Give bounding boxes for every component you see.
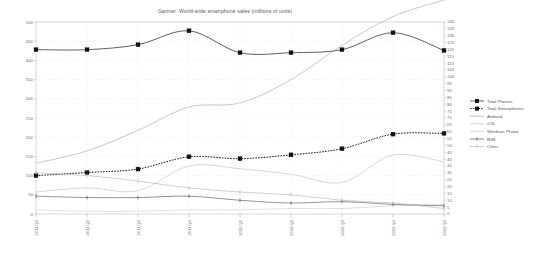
data-point-marker (187, 155, 191, 159)
x-axis-tick-label: 2012 Q1 (238, 219, 243, 235)
y-axis-right-tick-label: 140 (447, 19, 455, 24)
data-point-marker (289, 51, 293, 55)
legend-item-total-phones[interactable]: Total Phones (470, 99, 513, 104)
y-axis-right-tick-label: 40 (447, 157, 452, 162)
y-axis-right-tick-label: 95 (447, 81, 452, 86)
y-axis-right-tick-label: 45 (447, 150, 452, 155)
legend-label: Other (487, 144, 499, 149)
data-point-marker (442, 131, 446, 135)
y-axis-right-tick-label: 110 (447, 61, 454, 66)
data-point-marker (391, 132, 395, 136)
x-axis-tick-label: 2012 Q3 (340, 219, 345, 235)
x-axis-tick-label: 2011 Q3 (136, 219, 141, 235)
y-axis-right-tick-label: 115 (447, 54, 454, 59)
y-axis-right-tick-label: 60 (447, 129, 452, 134)
y-axis-right-tick-label: 55 (447, 136, 452, 141)
data-point-marker (136, 43, 140, 47)
y-axis-right-tick-label: 65 (447, 122, 452, 127)
y-axis-left-tick-label: 400 (26, 58, 34, 63)
x-axis-tick-label: 2011 Q1 (34, 219, 39, 235)
y-axis-left-tick-label: 450 (26, 39, 34, 44)
data-point-marker (187, 29, 191, 33)
legend-item-other[interactable]: Other (470, 144, 499, 149)
y-axis-right-tick-label: 10 (447, 198, 452, 203)
y-axis-left-tick-label: 0 (31, 212, 34, 217)
y-axis-right-tick-label: 90 (447, 88, 452, 93)
y-axis-right-tick-label: 105 (447, 67, 455, 72)
x-axis-tick-label: 2011 Q4 (187, 219, 192, 235)
chart-plot-area: 5004504003503002502001501005001401351301… (0, 0, 550, 255)
legend-label: Windows Phone (487, 129, 519, 134)
y-axis-right-tick-label: 70 (447, 115, 452, 120)
data-point-marker (238, 157, 242, 161)
y-axis-right-tick-label: 135 (447, 26, 455, 31)
y-axis-right-tick-label: 5 (447, 205, 450, 210)
legend-label: Total Phones (487, 99, 513, 104)
y-axis-right-tick-label: 25 (447, 177, 452, 182)
y-axis-right-tick-label: 35 (447, 163, 452, 168)
data-point-marker (391, 31, 395, 35)
legend-item-android[interactable]: Android (470, 114, 503, 119)
y-axis-right-tick-label: 30 (447, 170, 452, 175)
legend-item-total-smartphones[interactable]: Total Smartphones (470, 106, 524, 111)
data-point-marker (34, 48, 38, 52)
y-axis-left-tick-label: 200 (26, 135, 34, 140)
x-axis-tick-label: 2012 Q4 (391, 219, 396, 235)
legend-marker (475, 107, 479, 111)
y-axis-right-tick-label: 125 (447, 40, 455, 45)
legend-item-ios[interactable]: iOS (470, 121, 494, 126)
data-point-marker (442, 48, 446, 52)
legend-label: RIM (487, 137, 495, 142)
y-axis-left-tick-label: 350 (26, 77, 34, 82)
legend-label: Android (487, 114, 503, 119)
series-windows-phone (36, 204, 444, 211)
x-axis-tick-label: 2013 Q1 (442, 219, 447, 235)
y-axis-right-tick-label: 80 (447, 102, 452, 107)
y-axis-right-tick-label: 130 (447, 33, 455, 38)
y-axis-left-tick-label: 50 (28, 192, 33, 197)
data-point-marker (85, 48, 89, 52)
data-point-marker (238, 51, 242, 55)
data-point-marker (289, 153, 293, 157)
legend-item-rim[interactable]: RIM (470, 137, 495, 142)
y-axis-right-tick-label: 120 (447, 47, 455, 52)
legend-label: Total Smartphones (487, 106, 524, 111)
data-point-marker (340, 48, 344, 52)
y-axis-right-tick-label: 100 (447, 74, 455, 79)
y-axis-left-tick-label: 250 (26, 116, 34, 121)
y-axis-right-tick-label: 0 (447, 211, 450, 216)
data-point-marker (340, 147, 344, 151)
y-axis-right-tick-label: 15 (447, 191, 452, 196)
y-axis-left-tick-label: 100 (26, 173, 34, 178)
y-axis-right-tick-label: 75 (447, 109, 452, 114)
chart-container: Gartner: World-wide smartphone sales (mi… (0, 0, 550, 255)
y-axis-right-tick-label: 20 (447, 184, 452, 189)
y-axis-left-tick-label: 500 (26, 20, 34, 25)
y-axis-right-tick-label: 85 (447, 95, 452, 100)
legend-label: iOS (487, 121, 494, 126)
y-axis-left-tick-label: 150 (26, 154, 34, 159)
x-axis-tick-label: 2011 Q2 (85, 219, 90, 235)
data-point-marker (136, 167, 140, 171)
series-line (36, 204, 444, 211)
legend-item-windows-phone[interactable]: Windows Phone (470, 129, 519, 134)
x-axis-tick-label: 2012 Q2 (289, 219, 294, 235)
y-axis-left-tick-label: 300 (26, 96, 34, 101)
series-rim (36, 194, 444, 207)
y-axis-right-tick-label: 50 (447, 143, 452, 148)
legend-marker (475, 99, 479, 103)
